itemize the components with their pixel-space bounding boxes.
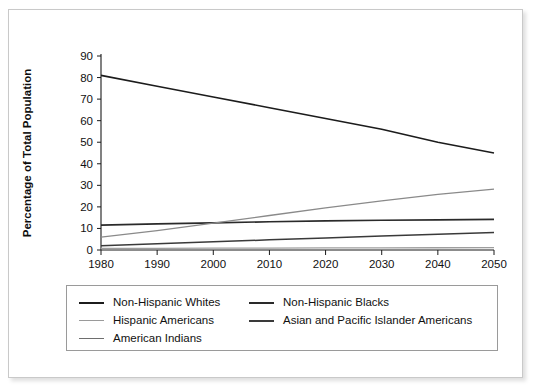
- series-line-asian-and-pacific-islander-americans: [101, 233, 494, 246]
- x-tick-label: 2010: [257, 258, 283, 270]
- x-tick-label: 1990: [144, 258, 170, 270]
- y-tick-label: 0: [87, 244, 93, 256]
- series-line-non-hispanic-blacks: [101, 219, 494, 225]
- y-tick-label: 10: [80, 222, 93, 234]
- y-tick-label: 30: [80, 179, 93, 191]
- series-line-hispanic-americans: [101, 189, 494, 237]
- legend-item-asian-and-pacific-islander-americans[interactable]: Asian and Pacific Islander Americans: [249, 312, 472, 329]
- legend-item-label: Asian and Pacific Islander Americans: [283, 315, 472, 327]
- series-line-american-indians: [101, 248, 494, 249]
- legend-item-label: Non-Hispanic Blacks: [283, 297, 389, 309]
- figure-card: 0102030405060708090198019902000201020202…: [8, 9, 523, 378]
- legend-swatch-icon: [79, 302, 104, 304]
- chart-y-axis-title: Percentage of Total Population: [21, 69, 33, 237]
- y-tick-label: 40: [80, 158, 93, 170]
- chart-legend: Non-Hispanic Whites Non-Hispanic Blacks …: [66, 285, 498, 351]
- y-tick-label: 90: [80, 50, 93, 62]
- x-tick-label: 2050: [481, 258, 507, 270]
- x-tick-label: 2000: [200, 258, 226, 270]
- legend-swatch-icon: [249, 320, 274, 322]
- chart-series-group: [101, 75, 494, 248]
- x-tick-label: 2030: [369, 258, 395, 270]
- x-tick-label: 1980: [88, 258, 114, 270]
- page-root: 0102030405060708090198019902000201020202…: [0, 0, 539, 392]
- legend-item-label: Hispanic Americans: [113, 315, 214, 327]
- x-tick-label: 2040: [425, 258, 451, 270]
- legend-item-label: Non-Hispanic Whites: [113, 297, 220, 309]
- legend-swatch-icon: [79, 338, 104, 339]
- legend-item-american-indians[interactable]: American Indians: [79, 330, 202, 347]
- y-tick-label: 60: [80, 115, 93, 127]
- series-line-non-hispanic-whites: [101, 75, 494, 153]
- legend-swatch-icon: [249, 302, 274, 304]
- y-tick-label: 80: [80, 72, 93, 84]
- legend-swatch-icon: [79, 320, 104, 321]
- y-tick-label: 50: [80, 136, 93, 148]
- legend-grid: Non-Hispanic Whites Non-Hispanic Blacks …: [67, 286, 497, 350]
- legend-item-non-hispanic-whites[interactable]: Non-Hispanic Whites: [79, 294, 220, 311]
- legend-item-hispanic-americans[interactable]: Hispanic Americans: [79, 312, 214, 329]
- x-tick-label: 2020: [313, 258, 339, 270]
- legend-item-label: American Indians: [113, 333, 202, 345]
- legend-item-non-hispanic-blacks[interactable]: Non-Hispanic Blacks: [249, 294, 389, 311]
- y-tick-label: 70: [80, 93, 93, 105]
- y-tick-label: 20: [80, 201, 93, 213]
- y-axis-title-text: Percentage of Total Population: [21, 69, 33, 237]
- line-chart: 0102030405060708090198019902000201020202…: [9, 10, 524, 285]
